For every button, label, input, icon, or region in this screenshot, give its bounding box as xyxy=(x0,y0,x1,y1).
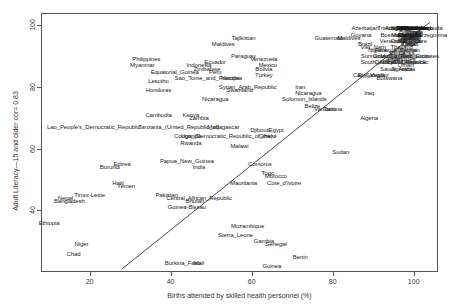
data-point-label: Ghana xyxy=(259,133,277,139)
data-point-label: Dominica xyxy=(402,59,426,65)
data-point-label: Saint_Lucia xyxy=(399,53,429,59)
data-point-label: Cambodia xyxy=(145,112,172,118)
data-point-label: Antigua_and_Barbuda xyxy=(385,25,443,31)
data-point-label: Tajikistan xyxy=(232,35,256,41)
x-tick-label: 60 xyxy=(248,278,256,285)
data-point-label: Guinea xyxy=(263,263,282,269)
data-point-label: Myanmar xyxy=(130,62,154,68)
data-point-label: Zambia xyxy=(189,115,208,121)
data-point-label: Morocco xyxy=(265,173,287,179)
data-point-label: Mozambique xyxy=(231,223,264,229)
data-point-label: Malawi xyxy=(230,143,248,149)
y-tick-label: 80 xyxy=(29,83,36,91)
data-point-label: Egypt xyxy=(269,127,284,133)
data-point-label: Mauritania xyxy=(230,180,257,186)
data-point-label: Syrian_Arab_Republic xyxy=(219,84,277,90)
data-point-label: Botswana xyxy=(377,75,403,81)
x-tick-mark xyxy=(171,272,172,276)
data-point-label: Comoros xyxy=(248,161,272,167)
y-tick-mark xyxy=(37,210,41,211)
data-point-label: Nicaragua xyxy=(202,96,228,102)
data-point-label: Sudan xyxy=(332,149,349,155)
y-tick-label: 100 xyxy=(29,19,36,31)
data-point-label: Nicaragua xyxy=(295,90,321,96)
data-point-label: Iran xyxy=(295,84,305,90)
y-tick-mark xyxy=(37,87,41,88)
data-point-label: Viet_Nam xyxy=(360,44,385,50)
data-point-label: Grenada xyxy=(398,35,421,41)
data-point-label: Djibouti xyxy=(250,127,269,133)
data-point-label: Nepal xyxy=(58,195,73,201)
data-point-label: Guinea-Bissau xyxy=(168,204,206,210)
data-point-label: Yemen xyxy=(117,183,135,189)
y-axis-title: Adult Literacy—15 and older cor= 0.83 xyxy=(12,91,19,211)
data-point-label: Cote_d'Ivoire xyxy=(267,180,301,186)
data-point-label: Philippines xyxy=(132,56,160,62)
data-point-label: Tunisia xyxy=(323,106,341,112)
x-tick-label: 40 xyxy=(167,278,175,285)
data-point-label: Bhutan xyxy=(186,198,204,204)
data-point-label: Senegal xyxy=(265,241,286,247)
data-point-label: Eritrea xyxy=(114,161,131,167)
x-axis-title: Births attended by skilled health person… xyxy=(167,292,311,299)
data-point-label: Peru xyxy=(209,69,221,75)
data-point-label: Ethiopia xyxy=(39,220,60,226)
scatter-plot-figure: EthiopiaNigerChadBangladeshNepalTimor-Le… xyxy=(0,0,454,308)
data-point-label: Lao_People's_Democratic_Republic xyxy=(47,124,140,130)
data-point-label: Benin xyxy=(293,254,308,260)
x-tick-mark xyxy=(90,272,91,276)
x-tick-label: 80 xyxy=(329,278,337,285)
data-point-label: Rwanda xyxy=(180,140,201,146)
y-axis-title-wrap: Adult Literacy—15 and older cor= 0.83 xyxy=(12,143,132,161)
data-point-label: Congo_(Democratic_Republic_of_the) xyxy=(174,133,273,139)
data-point-label: Venezuela xyxy=(250,56,277,62)
data-point-label: Chad xyxy=(66,251,80,257)
x-tick-mark xyxy=(333,272,334,276)
data-point-label: India xyxy=(193,164,206,170)
data-point-label: Jamaica xyxy=(391,66,413,72)
data-point-label: Equatorial_Guinea xyxy=(151,69,199,75)
x-tick-mark xyxy=(252,272,253,276)
data-point-label: Azerbaijan xyxy=(351,25,378,31)
y-tick-label: 40 xyxy=(29,206,36,214)
y-tick-mark xyxy=(37,25,41,26)
data-point-label: Turkey xyxy=(255,72,273,78)
data-point-label: Suriname xyxy=(361,53,386,59)
x-tick-label: 20 xyxy=(86,278,94,285)
data-point-label: Sierra_Leone xyxy=(218,232,253,238)
data-point-label: Namibia xyxy=(221,75,242,81)
data-point-label: Niger xyxy=(75,241,89,247)
data-point-label: Papua_New_Guinea xyxy=(160,158,214,164)
data-point-label: South_Africa xyxy=(361,59,394,65)
data-point-label: Lesotho xyxy=(148,78,169,84)
data-point-label: Mali xyxy=(194,260,205,266)
data-point-label: Bolivia xyxy=(255,66,272,72)
data-point-label: Maldives xyxy=(212,41,235,47)
data-point-label: Timor-Leste xyxy=(74,192,105,198)
data-point-label: Algeria xyxy=(360,115,378,121)
x-tick-mark xyxy=(414,272,415,276)
data-point-label: Maldives xyxy=(337,35,360,41)
data-point-label: Iraq xyxy=(364,90,374,96)
data-point-label: Honduras xyxy=(146,87,171,93)
data-point-label: Ecuador xyxy=(204,59,226,65)
data-point-label: Solomon_Islands xyxy=(282,96,327,102)
data-point-label: Madagascar xyxy=(207,124,239,130)
x-tick-label: 100 xyxy=(408,278,420,285)
